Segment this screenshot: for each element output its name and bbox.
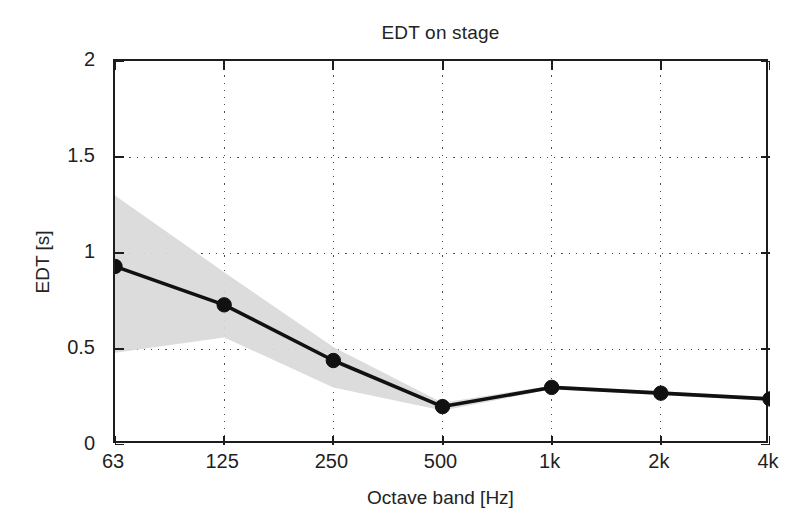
x-tick-label: 500 <box>424 450 457 473</box>
x-tick-label: 125 <box>205 450 238 473</box>
y-tick-label: 2 <box>84 48 95 71</box>
y-tick-label: 0.5 <box>67 336 95 359</box>
y-tick-label: 1.5 <box>67 144 95 167</box>
y-tick-label: 0 <box>84 432 95 455</box>
x-tick-label: 4k <box>757 450 778 473</box>
vertical-gridlines <box>224 61 661 445</box>
plot-canvas <box>115 61 770 445</box>
x-axis-title: Octave band [Hz] <box>113 487 768 509</box>
x-tick-label: 250 <box>315 450 348 473</box>
x-tick-label: 1k <box>539 450 560 473</box>
plot-area <box>113 59 768 443</box>
chart-figure: EDT on stage EDT [s] 00.511.52 631252505… <box>0 0 811 528</box>
x-tick-label: 2k <box>648 450 669 473</box>
y-axis-tick-labels: 00.511.52 <box>40 59 106 443</box>
x-tick-label: 63 <box>102 450 124 473</box>
y-tick-label: 1 <box>84 240 95 263</box>
chart-title: EDT on stage <box>113 22 768 44</box>
x-axis-tick-labels: 631252505001k2k4k <box>113 450 768 480</box>
